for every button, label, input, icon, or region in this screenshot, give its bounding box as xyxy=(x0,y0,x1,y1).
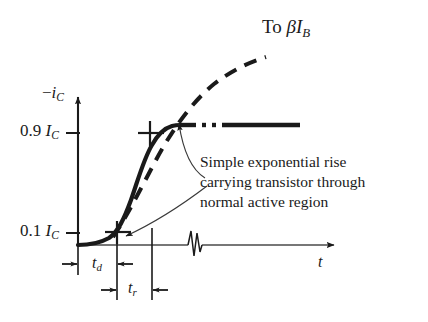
annotation-text-block: Simple exponential rise carrying transis… xyxy=(200,152,365,212)
rise-time-label: tr xyxy=(128,280,137,298)
y-tick-high-coefficient: 0.9 xyxy=(20,121,41,140)
crossing-marker-low xyxy=(105,221,131,244)
y-tick-low-coefficient: 0.1 xyxy=(20,221,41,240)
y-axis-label: −iC xyxy=(42,84,64,104)
crossing-marker-high xyxy=(138,121,164,146)
delay-time-label: td xyxy=(92,255,102,273)
y-axis-label-sign: − xyxy=(42,83,52,102)
y-tick-label-high: 0.9 IC xyxy=(20,122,59,142)
annotation-line-1: Simple exponential rise xyxy=(200,152,365,172)
delay-time-subscript: d xyxy=(96,261,101,273)
y-tick-label-low: 0.1 IC xyxy=(20,222,59,242)
asymptote-label: To βIB xyxy=(262,17,310,40)
asymptote-label-beta: β xyxy=(287,16,296,37)
asymptote-label-subscript: B xyxy=(302,25,310,40)
y-tick-low-subscript: C xyxy=(51,229,59,242)
y-axis-label-subscript: C xyxy=(56,91,64,104)
axis-break-icon xyxy=(188,231,202,256)
rise-time-subscript: r xyxy=(132,286,136,298)
collector-current-curve xyxy=(78,125,180,245)
asymptote-label-prefix: To xyxy=(262,16,282,37)
annotation-line-2: carrying transistor through xyxy=(200,172,365,192)
y-tick-high-subscript: C xyxy=(51,129,59,142)
x-axis-label: t xyxy=(318,254,322,270)
annotation-line-3: normal active region xyxy=(200,192,365,212)
